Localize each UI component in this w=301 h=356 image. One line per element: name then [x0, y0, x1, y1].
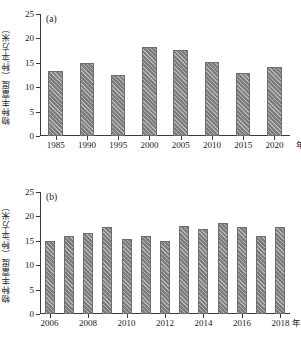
panel-b-y-axis-label: 物种丰富度（种/平方米）: [0, 178, 15, 328]
panel-a: 物种丰富度（种/平方米） (a) 05101520251985199019952…: [0, 0, 301, 178]
panel-a-y-tick: [36, 87, 40, 88]
panel-a-x-axis-title: 年份: [296, 141, 301, 150]
panel-a-x-tick-label: 2020: [265, 141, 283, 150]
panel-a-x-tick-label: 2005: [172, 141, 190, 150]
panel-b-y-tick: [36, 314, 40, 315]
panel-b-x-tick-label: 2008: [79, 319, 97, 328]
panel-b-x-tick-label: 2012: [156, 319, 174, 328]
bar: [111, 75, 125, 136]
bar: [179, 226, 189, 314]
bar: [198, 229, 208, 314]
bar: [45, 241, 55, 314]
panel-b-x-tick-label: 2010: [118, 319, 136, 328]
panel-a-y-axis-label: 物种丰富度（种/平方米）: [0, 0, 15, 150]
bar: [142, 47, 156, 136]
panel-b-tag: (b): [46, 193, 57, 203]
panel-b-y-axis-line: [40, 192, 41, 314]
bar: [64, 236, 74, 314]
panel-a-y-tick-label: 25: [25, 10, 34, 19]
panel-b-y-tick-label: 25: [25, 188, 34, 197]
bar: [48, 71, 62, 136]
bar: [236, 73, 250, 136]
panel-a-y-tick-label: 15: [25, 58, 34, 67]
panel-b-y-tick-label: 10: [25, 261, 34, 270]
panel-a-y-axis-line: [40, 14, 41, 136]
panel-a-axes-frame: [40, 14, 290, 136]
panel-a-x-tick-label: 2010: [203, 141, 221, 150]
bar: [256, 236, 266, 314]
panel-a-y-tick-label: 5: [30, 107, 35, 116]
panel-a-x-tick-label: 1985: [47, 141, 65, 150]
bar: [83, 233, 93, 314]
panel-b-plot-area: (b) 051015202520062008201020122014201620…: [40, 192, 290, 314]
bar: [160, 241, 170, 314]
panel-a-tag: (a): [46, 15, 57, 25]
bar: [205, 62, 219, 136]
panel-a-y-tick-label: 10: [25, 83, 34, 92]
panel-b-y-tick-label: 5: [30, 285, 35, 294]
panel-a-x-tick-label: 2000: [140, 141, 158, 150]
bar: [237, 227, 247, 314]
panel-a-y-tick: [36, 112, 40, 113]
panel-a-x-tick-label: 1990: [78, 141, 96, 150]
panel-a-y-tick-label: 0: [30, 132, 35, 141]
panel-b-x-tick-label: 2016: [233, 319, 251, 328]
panel-a-y-tick: [36, 38, 40, 39]
panel-b-x-tick-label: 2014: [194, 319, 212, 328]
panel-a-x-axis-line: [40, 135, 290, 136]
panel-a-y-tick-label: 20: [25, 34, 34, 43]
panel-a-y-tick: [36, 136, 40, 137]
panel-b-y-tick: [36, 216, 40, 217]
bar: [218, 223, 228, 314]
panel-b-y-tick: [36, 265, 40, 266]
bar: [102, 227, 112, 314]
panel-b-y-tick: [36, 192, 40, 193]
panel-b: 物种丰富度（种/平方米） (b) 05101520252006200820102…: [0, 178, 301, 356]
panel-a-y-tick: [36, 63, 40, 64]
bar: [141, 236, 151, 314]
panel-b-y-tick-label: 20: [25, 212, 34, 221]
panel-a-x-tick-label: 1995: [109, 141, 127, 150]
panel-b-x-tick-label: 2006: [41, 319, 59, 328]
panel-b-y-tick: [36, 290, 40, 291]
bar: [173, 50, 187, 136]
panel-a-y-tick: [36, 14, 40, 15]
bar: [275, 227, 285, 314]
bar: [267, 67, 281, 136]
panel-b-y-tick-label: 0: [30, 310, 35, 319]
bar: [122, 239, 132, 314]
panel-a-x-tick-label: 2015: [234, 141, 252, 150]
bar: [80, 63, 94, 136]
figure-root: 物种丰富度（种/平方米） (a) 05101520251985199019952…: [0, 0, 301, 356]
panel-b-y-tick-label: 15: [25, 236, 34, 245]
panel-b-y-tick: [36, 241, 40, 242]
panel-b-x-axis-title: 年份: [292, 319, 301, 328]
panel-a-plot-area: (a) 051015202519851990199520002005201020…: [40, 14, 290, 136]
panel-b-x-tick-label: 2018: [271, 319, 289, 328]
